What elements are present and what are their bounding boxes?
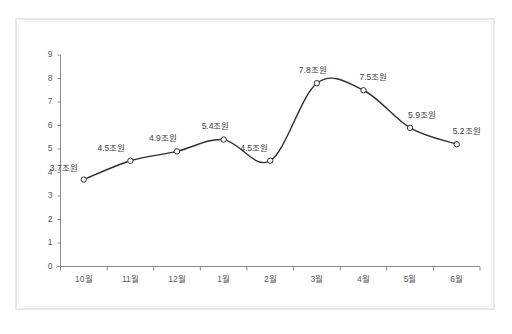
y-axis-tick-label: 3 <box>37 191 53 200</box>
data-point-marker <box>314 81 319 86</box>
data-point-marker <box>454 142 459 147</box>
x-axis-tick-label: 11월 <box>107 274 154 284</box>
data-point-label: 4.5조원 <box>240 143 268 153</box>
data-point-marker <box>407 125 412 130</box>
data-point-marker <box>361 88 366 93</box>
y-axis-tick-label: 2 <box>37 215 53 224</box>
x-axis-tick-label: 5월 <box>387 274 434 284</box>
y-axis-tick-label: 7 <box>37 97 53 106</box>
y-axis-tick-label: 1 <box>37 238 53 247</box>
y-axis-tick-label: 6 <box>37 121 53 130</box>
data-point-label: 5.2조원 <box>453 126 481 136</box>
data-point-marker <box>128 158 133 163</box>
data-point-marker <box>221 137 226 142</box>
chart-container: 9876543210 10월11월12월1월2월3월4월5월6월 3.7조원4.… <box>0 0 512 334</box>
x-axis-ticks <box>61 267 481 271</box>
x-axis-tick-label: 2월 <box>247 274 294 284</box>
x-axis-tick-label: 12월 <box>154 274 201 284</box>
y-axis-tick-label: 9 <box>37 50 53 59</box>
data-point-label: 7.5조원 <box>359 72 387 82</box>
y-axis-tick-label: 0 <box>37 262 53 271</box>
y-axis-tick-label: 8 <box>37 74 53 83</box>
x-axis-tick-label: 6월 <box>433 274 480 284</box>
x-axis-tick-label: 10월 <box>61 274 108 284</box>
data-point-label: 5.9조원 <box>408 110 436 120</box>
data-point-marker <box>174 149 179 154</box>
data-point-label: 4.5조원 <box>97 143 125 153</box>
data-point-marker <box>268 158 273 163</box>
data-point-label: 7.8조원 <box>299 65 327 75</box>
data-point-label: 4.9조원 <box>149 133 177 143</box>
data-point-marker <box>81 177 86 182</box>
series-line <box>84 78 457 179</box>
y-axis-tick-label: 5 <box>37 144 53 153</box>
x-axis-tick-label: 4월 <box>340 274 387 284</box>
x-axis-tick-label: 1월 <box>200 274 247 284</box>
series-markers <box>81 81 459 183</box>
data-point-label: 3.7조원 <box>50 163 78 173</box>
data-point-label: 5.4조원 <box>202 121 230 131</box>
x-axis-tick-label: 3월 <box>294 274 341 284</box>
